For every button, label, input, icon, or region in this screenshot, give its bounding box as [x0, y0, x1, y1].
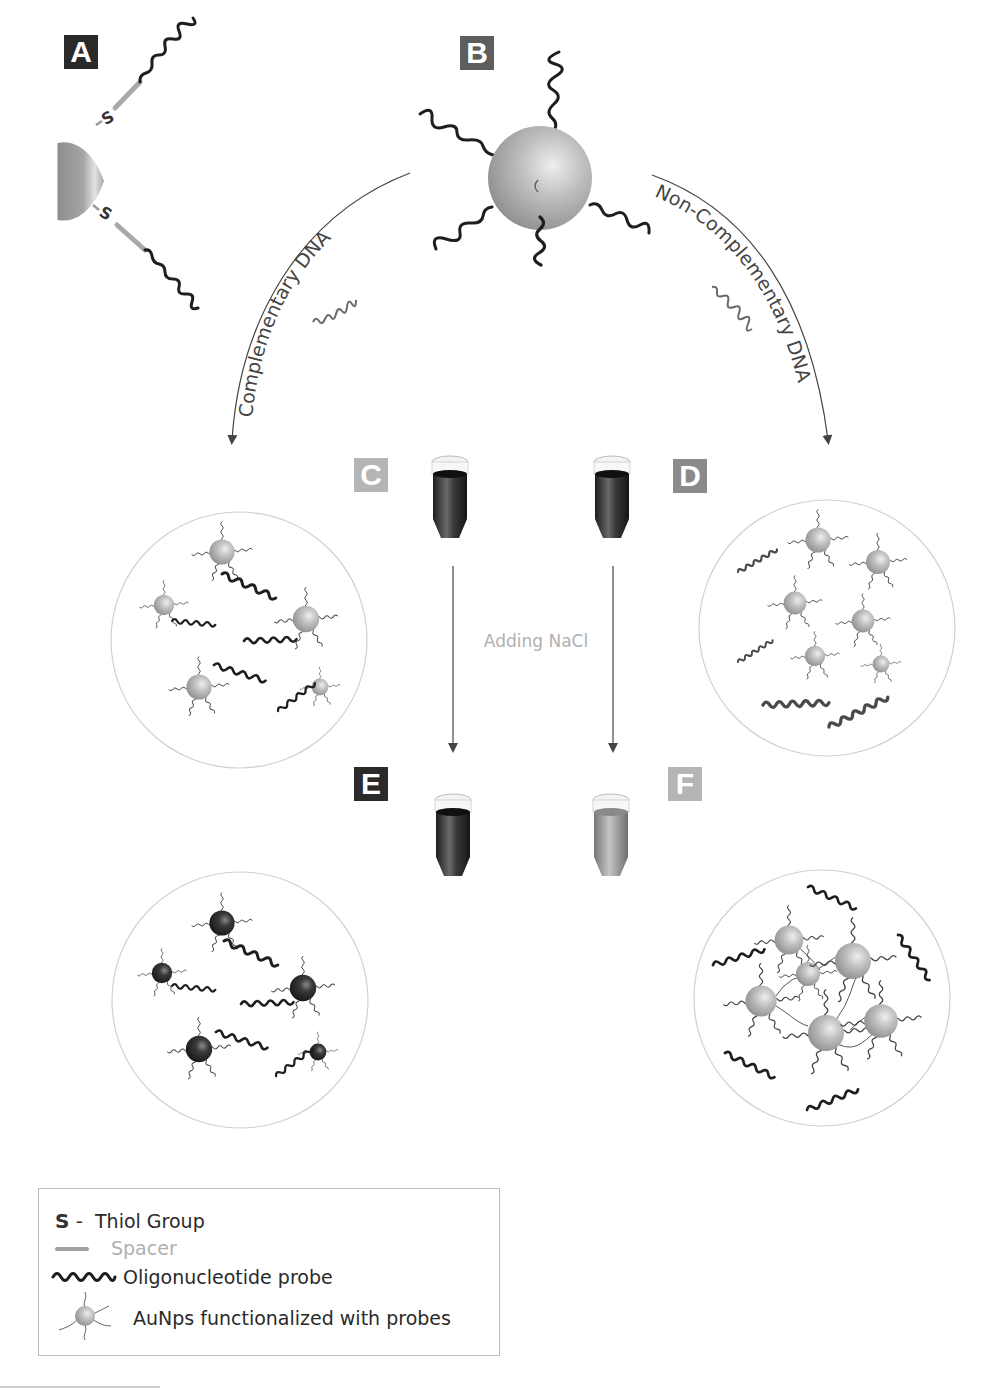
oligonucleotide-icon: [51, 1268, 123, 1287]
aunp-icon: [53, 1291, 133, 1345]
circle-f-aggregated-noncomplementary: [694, 870, 950, 1126]
legend-text-thiol: Thiol Group: [95, 1210, 205, 1232]
legend-text-spacer: Spacer: [111, 1237, 177, 1259]
panel-label-e: E: [354, 767, 388, 801]
complementary-arrow: Complementary DNA: [232, 173, 410, 440]
legend-item-oligonucleotide: Oligonucleotide probe: [51, 1264, 333, 1290]
diagram-canvas: S S Complementary DNA Non-Complementary …: [0, 0, 994, 1394]
panel-label-d: D: [673, 459, 707, 493]
bottom-rule: [0, 1386, 160, 1388]
legend-text-aunp: AuNps functionalized with probes: [133, 1307, 451, 1329]
nacl-arrows: Adding NaCl: [453, 566, 613, 748]
legend-box: S - Thiol Group Spacer Oligonucleotide p…: [38, 1188, 500, 1356]
panel-label-b: B: [460, 36, 494, 70]
legend-item-aunp: AuNps functionalized with probes: [53, 1293, 451, 1343]
circle-c-dispersed-complementary: [111, 512, 367, 768]
adding-nacl-label: Adding NaCl: [484, 631, 588, 651]
tube-e: [435, 794, 471, 876]
panel-label-f: F: [668, 767, 702, 801]
legend-item-thiol: S - Thiol Group: [55, 1208, 205, 1234]
circle-d-dispersed-noncomplementary: [699, 500, 955, 756]
legend-item-spacer: Spacer: [55, 1235, 177, 1261]
circle-e-stable-complementary: [112, 872, 368, 1128]
panel-b-illustration: [420, 52, 649, 265]
non-complementary-dna-label: Non-Complementary DNA: [652, 180, 815, 385]
tube-d: [594, 456, 630, 538]
legend-text-oligonucleotide: Oligonucleotide probe: [123, 1266, 333, 1288]
panel-label-c: C: [354, 458, 388, 492]
thiol-icon: S -: [55, 1209, 95, 1233]
tube-f: [593, 794, 629, 876]
thiol-label-lower: S: [96, 202, 115, 224]
non-complementary-arrow: Non-Complementary DNA: [652, 175, 828, 440]
tube-c: [432, 456, 468, 538]
spacer-icon: [55, 1239, 111, 1258]
panel-label-a: A: [64, 35, 98, 69]
